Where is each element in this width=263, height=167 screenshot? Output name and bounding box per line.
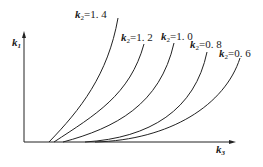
chart-svg: k1 k3 k2=1. 4 k2=1. 2 k2=1. 0 k2=0. 8 k2… [0, 0, 263, 167]
curve-label-1.4: k2=1. 4 [75, 8, 107, 22]
x-axis-label: k3 [216, 143, 226, 157]
curve-k2-1.2 [54, 44, 144, 142]
curve-k2-0.6 [95, 58, 240, 142]
chart-figure: k1 k3 k2=1. 4 k2=1. 2 k2=1. 0 k2=0. 8 k2… [0, 0, 263, 167]
curve-k2-1.4 [49, 18, 118, 142]
curve-label-1.2: k2=1. 2 [121, 31, 153, 45]
curve-label-1.0: k2=1. 0 [161, 30, 193, 44]
y-axis-arrow-icon [22, 31, 26, 38]
x-axis-arrow-icon [229, 140, 236, 144]
curve-label-0.6: k2=0. 6 [219, 47, 251, 61]
y-axis-label: k1 [12, 36, 21, 50]
curve-label-0.8: k2=0. 8 [190, 38, 222, 52]
